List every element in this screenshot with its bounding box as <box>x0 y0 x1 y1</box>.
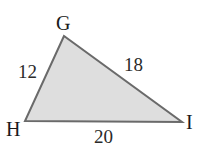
triangle-figure: G H I 12 18 20 <box>0 0 207 163</box>
triangle-diagram: G H I 12 18 20 <box>0 0 207 163</box>
vertex-label-g: G <box>56 12 70 34</box>
side-label-hi: 20 <box>94 126 113 147</box>
vertex-label-h: H <box>6 118 20 140</box>
side-label-gh: 12 <box>18 61 37 82</box>
triangle-ghi <box>25 36 182 122</box>
vertex-label-i: I <box>186 111 193 133</box>
side-label-gi: 18 <box>124 54 143 75</box>
